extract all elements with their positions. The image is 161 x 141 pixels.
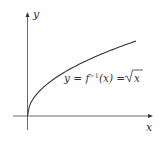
graph: y x y = f−1(x) = x [0, 0, 161, 141]
svg-text:y = f−1(x) =: y = f−1(x) = [63, 72, 125, 84]
y-axis-label: y [32, 8, 40, 21]
x-axis-arrow-icon [148, 114, 153, 118]
curve-equation-label: y = f−1(x) = x [63, 70, 143, 84]
svg-text:x: x [134, 72, 140, 84]
y-axis-arrow-icon [26, 12, 30, 17]
x-axis-label: x [146, 121, 153, 134]
